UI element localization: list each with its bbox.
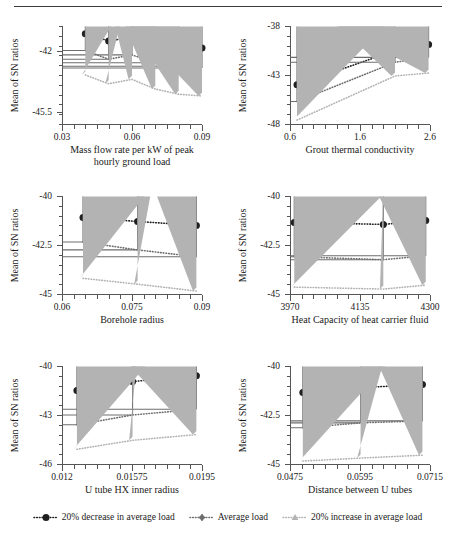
x-axis: 0.012 0.01575 0.0195 <box>62 464 202 465</box>
x-axis: 0.6 1.6 2.6 <box>290 124 430 125</box>
y-tick-label: -40 <box>39 361 52 372</box>
chart-panel-4: Mean of SN ratios-46-43-40 0.012 0.01575… <box>0 352 227 520</box>
legend-label: Average load <box>218 512 268 522</box>
legend-label: 20% increase in average load <box>311 512 422 522</box>
chart-panel-5: Mean of SN ratios-45-42.5-40 0.0475 0.05… <box>228 352 455 520</box>
y-tick-label: -42.5 <box>260 240 280 251</box>
y-axis-title: Mean of SN ratios <box>8 366 22 464</box>
x-axis: 0.03 0.06 0.09 <box>62 124 202 125</box>
x-axis-title: U tube HX inner radius <box>62 484 202 496</box>
plot-area <box>290 196 430 294</box>
y-tick-label: -45 <box>39 289 52 300</box>
legend-label: 20% decrease in average load <box>62 512 175 522</box>
panel-grid: Mean of SN ratios-45.5-42 0.03 0.06 0.09… <box>0 12 455 504</box>
x-axis-title: Mass flow rate per kW of peak hourly gro… <box>62 144 202 168</box>
y-tick-label: -45 <box>267 459 280 470</box>
y-tick-label: -38 <box>267 21 280 32</box>
x-tick-label: 0.06 <box>124 132 141 143</box>
legend-marker-circle-icon <box>33 513 59 522</box>
plot-area <box>62 26 202 124</box>
x-tick-label: 0.0475 <box>277 472 303 483</box>
x-axis-title: Grout thermal conductivity <box>290 144 430 156</box>
y-tick-label: -43 <box>267 70 280 81</box>
x-tick-label: 0.6 <box>284 132 296 143</box>
legend-item-2: 20% increase in average load <box>282 512 422 522</box>
plot-area <box>290 26 430 124</box>
chart-panel-2: Mean of SN ratios-45-42.5-40 0.06 0.075 … <box>0 182 227 350</box>
x-tick-label: 0.0595 <box>347 472 373 483</box>
x-axis: 0.0475 0.0595 0.0715 <box>290 464 430 465</box>
y-axis-title: Mean of SN ratios <box>236 366 250 464</box>
plot-area <box>290 366 430 464</box>
x-tick-label: 0.03 <box>54 132 71 143</box>
x-tick-label: 0.01575 <box>117 472 148 483</box>
legend-marker-triangle-icon <box>282 513 308 522</box>
x-tick-label: 3970 <box>281 302 300 313</box>
y-tick-label: -40 <box>267 191 280 202</box>
y-tick-label: -45 <box>267 289 280 300</box>
x-tick-label: 2.6 <box>424 132 436 143</box>
x-axis: 3970 4135 4300 <box>290 294 430 295</box>
x-tick-label: 0.075 <box>121 302 142 313</box>
y-axis-title: Mean of SN ratios <box>8 196 22 294</box>
x-axis-title: Distance between U tubes <box>290 484 430 496</box>
y-tick-label: -45.5 <box>32 107 52 118</box>
y-tick-label: -42.5 <box>260 410 280 421</box>
legend-marker-diamond-icon <box>189 513 215 522</box>
y-tick-label: -42 <box>39 46 52 57</box>
y-axis-title: Mean of SN ratios <box>8 26 22 124</box>
plot-area <box>62 366 202 464</box>
chart-panel-1: Mean of SN ratios-48-43-38 0.6 1.6 2.6Gr… <box>228 12 455 180</box>
y-tick-label: -40 <box>267 361 280 372</box>
legend-item-1: Average load <box>189 512 268 522</box>
x-tick-label: 1.6 <box>354 132 366 143</box>
y-tick-label: -40 <box>39 191 52 202</box>
y-axis-title: Mean of SN ratios <box>236 196 250 294</box>
chart-panel-3: Mean of SN ratios-45-42.5-40 3970 4135 4… <box>228 182 455 350</box>
header-rule <box>14 6 442 7</box>
y-tick-label: -42.5 <box>32 240 52 251</box>
x-axis-title: Heat Capacity of heat carrier fluid <box>290 314 430 326</box>
figure-legend: 20% decrease in average load Average loa… <box>0 512 455 522</box>
y-axis-title: Mean of SN ratios <box>236 26 250 124</box>
plot-area <box>62 196 202 294</box>
legend-item-0: 20% decrease in average load <box>33 512 175 522</box>
x-tick-label: 0.0195 <box>189 472 215 483</box>
chart-panel-0: Mean of SN ratios-45.5-42 0.03 0.06 0.09… <box>0 12 227 180</box>
y-tick-label: -43 <box>39 410 52 421</box>
x-tick-label: 0.06 <box>54 302 71 313</box>
y-tick-label: -46 <box>39 459 52 470</box>
x-axis: 0.06 0.075 0.09 <box>62 294 202 295</box>
x-tick-label: 0.09 <box>194 132 211 143</box>
x-tick-label: 0.012 <box>51 472 72 483</box>
x-tick-label: 0.0715 <box>417 472 443 483</box>
x-tick-label: 4300 <box>421 302 440 313</box>
x-axis-title: Borehole radius <box>62 314 202 326</box>
y-tick-label: -48 <box>267 119 280 130</box>
x-tick-label: 0.09 <box>194 302 211 313</box>
x-tick-label: 4135 <box>351 302 370 313</box>
